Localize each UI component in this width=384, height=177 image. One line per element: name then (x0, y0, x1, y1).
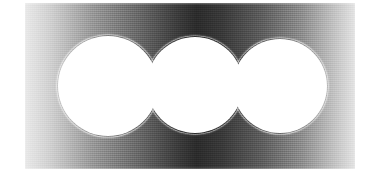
artwork-plate (25, 3, 355, 169)
circle-left (58, 36, 158, 136)
circle-right (233, 39, 327, 133)
image-canvas (0, 0, 384, 177)
circle-middle (147, 37, 243, 133)
